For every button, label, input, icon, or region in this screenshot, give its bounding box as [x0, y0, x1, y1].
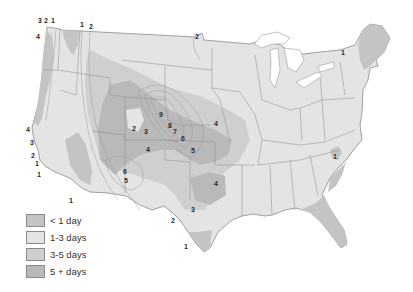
contour-label: 6: [123, 168, 127, 175]
legend-label: 1-3 days: [50, 232, 86, 243]
contour-label: 3: [38, 17, 42, 24]
contour-label: 5: [124, 177, 128, 184]
legend-swatch: [26, 265, 45, 278]
legend-label: 3-5 days: [50, 249, 86, 260]
contour-label: 3: [144, 128, 148, 135]
legend-swatch: [26, 231, 45, 244]
contour-label: 1: [80, 21, 84, 28]
contour-label: 2: [132, 125, 136, 132]
contour-label: 1: [184, 243, 188, 250]
contour-label: 1: [341, 49, 345, 56]
contour-label: 1: [35, 160, 39, 167]
contour-label: 4: [214, 180, 218, 187]
contour-label: 9: [159, 111, 163, 118]
contour-label: 2: [31, 152, 35, 159]
contour-label: 1: [333, 153, 337, 160]
legend-label: < 1 day: [50, 215, 81, 226]
contour-label: 2: [44, 17, 48, 24]
contour-label: 8: [168, 122, 172, 129]
contour-label: 5: [191, 147, 195, 154]
contour-label: 1: [37, 171, 41, 178]
legend-item-lt1: < 1 day: [26, 212, 86, 228]
contour-label: 4: [36, 33, 40, 40]
legend-swatch: [26, 248, 45, 261]
legend-label: 5 + days: [50, 266, 86, 277]
contour-label: 4: [26, 126, 30, 133]
map-legend: < 1 day 1-3 days 3-5 days 5 + days: [26, 212, 86, 280]
contour-label: 1: [51, 17, 55, 24]
contour-label: 4: [146, 146, 150, 153]
contour-label: 4: [214, 120, 218, 127]
contour-label: 2: [195, 33, 199, 40]
contour-label: 2: [89, 23, 93, 30]
legend-swatch: [26, 214, 45, 227]
contour-label: 3: [191, 206, 195, 213]
legend-item-1to3: 1-3 days: [26, 229, 86, 245]
contour-label: 3: [30, 139, 34, 146]
contour-label: 6: [181, 135, 185, 142]
legend-item-3to5: 3-5 days: [26, 246, 86, 262]
contour-label: 7: [173, 128, 177, 135]
legend-item-5plus: 5 + days: [26, 263, 86, 279]
contour-label: 1: [69, 197, 73, 204]
zone-lt1-texas-coast: [188, 230, 212, 252]
contour-label: 2: [171, 217, 175, 224]
